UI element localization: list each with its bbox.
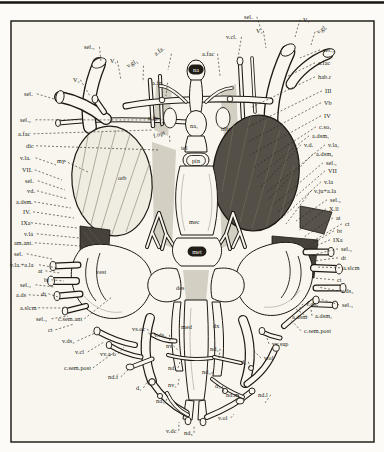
anatomy-label: sel.₃ — [20, 281, 31, 288]
anatomy-label: v.ds₃ — [341, 287, 353, 294]
anatomy-label: v.ds₅ — [306, 300, 318, 307]
anatomy-label: v.ju+a.la — [314, 187, 336, 194]
anatomy-label: sel. — [25, 177, 34, 184]
anatomy-label: IV. — [23, 208, 31, 215]
anatomy-label: c.so₁ — [319, 123, 331, 130]
anatomy-label: a.slcm — [20, 304, 37, 311]
anatomy-label: a.fac — [18, 130, 30, 137]
anatomy-label: sel. — [244, 13, 253, 20]
anatomy-label: a.dsm₂ — [316, 150, 333, 157]
anatomy-label: a.dsm — [292, 313, 307, 320]
anatomy-label: dic — [26, 142, 34, 149]
anatomy-label: v.cl — [262, 259, 271, 266]
anatomy-label: V₁ — [303, 16, 310, 23]
anatomy-label: sel.₄ — [323, 46, 334, 53]
anatomy-label: ct — [345, 220, 350, 227]
anatomy-label: na — [193, 66, 199, 73]
anatomy-label: c.sem.ant — [58, 315, 82, 322]
anatomy-label: vd. — [27, 187, 35, 194]
anatomy-label: V₁ — [110, 57, 117, 64]
anatomy-label: at — [38, 267, 43, 274]
anatomy-label: tel — [181, 144, 188, 151]
anatomy-label: a.slcm — [343, 264, 360, 271]
anatomy-label: ct — [337, 276, 342, 283]
anatomy-label: dt — [41, 290, 46, 297]
anatomy-label: ct — [48, 326, 53, 333]
anatomy-label: nv — [166, 342, 173, 349]
anatomy-label: v.cl. — [226, 33, 237, 40]
anatomy-label: vv.a-o — [100, 350, 116, 357]
anatomy-label: hab.r — [318, 73, 331, 80]
anatomy-label: V₂ — [256, 27, 263, 34]
anatomy-label: a.dsm₁ — [312, 132, 329, 139]
anatomy-label: sel.₁ — [326, 159, 337, 166]
anatomy-label: dx — [213, 322, 220, 329]
anatomy-label: d₁ — [136, 384, 141, 391]
anatomical-figure: sel.₁V₂sel.sel.₂a.facdicv.la.myVII.sel.v… — [0, 0, 384, 452]
anatomy-label: des — [176, 284, 185, 291]
anatomy-label: v.ol — [264, 354, 274, 361]
anatomy-label: nd.m — [226, 391, 239, 398]
anatomy-label: med — [181, 323, 193, 330]
olfactory-lobe-left — [164, 108, 177, 128]
anatomy-label: v.la₁ — [328, 141, 339, 148]
anatomy-label: a.ds — [16, 291, 27, 298]
anatomy-label: bt — [337, 227, 342, 234]
anatomy-label: V₂ — [73, 76, 80, 83]
anatomy-label: III — [325, 87, 331, 94]
anatomy-label: vest — [96, 268, 107, 275]
anatomy-label: v.la — [24, 230, 33, 237]
anatomy-label: vest — [277, 245, 288, 252]
anatomy-label: IXa — [333, 236, 343, 243]
anatomy-label: v.dc — [166, 427, 177, 434]
anatomy-label: X.ll — [329, 205, 339, 212]
anatomy-label: sel.₂ — [20, 116, 31, 123]
anatomy-label: nd₂ — [210, 345, 219, 352]
anatomy-label: v.la.+a.la — [10, 261, 34, 268]
anatomy-label: am.ant. — [14, 239, 33, 246]
anatomy-label: olfc — [221, 125, 231, 132]
anatomy-label: sel. — [14, 250, 23, 257]
anatomy-label: v.ol — [218, 414, 228, 421]
anatomy-label: a.dsm. — [16, 198, 33, 205]
anatomy-label: met — [192, 248, 202, 255]
anatomy-label: sel.₂ — [330, 196, 341, 203]
anatomy-label: a.fac — [318, 59, 330, 66]
anatomy-label: c.sem.post — [304, 327, 331, 334]
anatomy-label: v.la. — [20, 154, 31, 161]
anatomy-label: a.fp. — [148, 114, 160, 121]
anatomy-label: v.la — [324, 178, 333, 185]
anatomy-label: na₁ — [190, 122, 198, 129]
anatomy-label: nd.f — [108, 373, 119, 380]
anatomy-label: nd₁ — [168, 364, 177, 371]
anatomy-label: nv₁ — [168, 381, 177, 388]
anatomy-label: nd₅ — [184, 429, 193, 436]
anatomy-label: v.cl — [75, 348, 84, 355]
anatomy-label: vv.sup — [272, 340, 289, 347]
anatomy-label: v.ds₅ — [154, 331, 166, 338]
anatomy-label: a.dsm₁ — [315, 312, 332, 319]
anatomy-label: orb — [118, 174, 127, 181]
anatomy-label: my — [57, 157, 66, 164]
anatomy-label: d₂ — [241, 358, 246, 365]
anatomy-label: sel. — [24, 90, 33, 97]
medulla-tube — [184, 300, 208, 400]
anatomy-label: pin — [192, 157, 200, 164]
anatomy-label: sel.₄ — [36, 315, 47, 322]
anatomy-label: sel.₃ — [341, 245, 352, 252]
anatomy-label: vs.oc — [132, 325, 146, 332]
anatomy-label: VII. — [22, 166, 33, 173]
anatomy-label: nd₃ — [202, 368, 211, 375]
anatomy-label: a.fac — [202, 50, 214, 57]
anatomy-label: bt — [44, 276, 49, 283]
anatomy-label: sel.₁ — [84, 43, 95, 50]
scanned-plate-page: sel.₁V₂sel.sel.₂a.facdicv.la.myVII.sel.v… — [0, 0, 384, 452]
anatomy-label: c.sem.post — [64, 364, 91, 371]
anatomy-label: IXa — [21, 219, 31, 226]
anatomy-label: d₄ — [215, 382, 220, 389]
anatomy-label: Vb — [324, 99, 332, 106]
anatomy-label: sel.₄ — [342, 301, 353, 308]
anatomy-label: a.fn. — [152, 79, 164, 86]
anatomy-label: VII — [328, 167, 337, 174]
anatomy-label: nd.l — [258, 391, 268, 398]
